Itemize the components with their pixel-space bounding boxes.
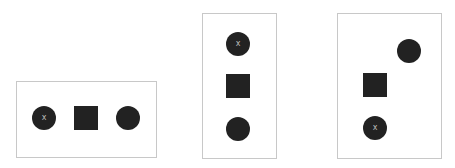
circle-shape: x xyxy=(226,32,250,56)
x-mark-icon: x xyxy=(373,124,378,132)
panel-diagonal xyxy=(337,13,442,159)
circle-shape xyxy=(116,106,140,130)
x-mark-icon: x xyxy=(42,114,47,122)
circle-shape: x xyxy=(363,116,387,140)
square-shape xyxy=(226,74,250,98)
x-mark-icon: x xyxy=(236,40,241,48)
circle-shape xyxy=(397,39,421,63)
circle-shape: x xyxy=(32,106,56,130)
circle-shape xyxy=(226,117,250,141)
square-shape xyxy=(74,106,98,130)
square-shape xyxy=(363,73,387,97)
